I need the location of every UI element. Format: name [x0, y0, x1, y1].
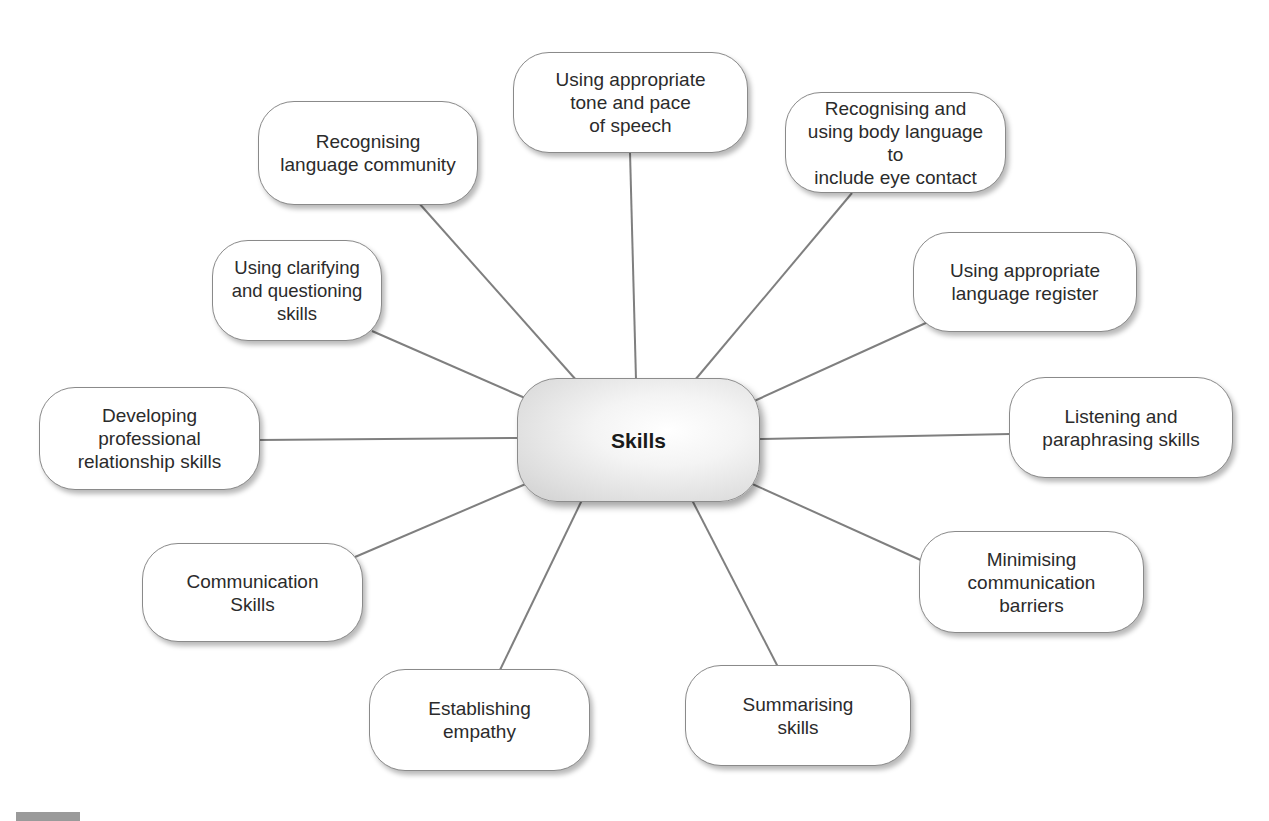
center-node-skills[interactable]: Skills: [517, 378, 760, 502]
node-label: Minimising communication barriers: [968, 548, 1096, 617]
node-label: Recognising language community: [280, 130, 455, 176]
node-label: Listening and paraphrasing skills: [1042, 405, 1199, 451]
node-language-register[interactable]: Using appropriate language register: [913, 232, 1137, 332]
node-label: Using appropriate tone and pace of speec…: [556, 68, 706, 137]
node-tone-pace[interactable]: Using appropriate tone and pace of speec…: [513, 52, 748, 153]
node-professional[interactable]: Developing professional relationship ski…: [39, 387, 260, 490]
node-empathy[interactable]: Establishing empathy: [369, 669, 590, 771]
connector-professional: [259, 438, 519, 440]
node-communication[interactable]: Communication Skills: [142, 543, 363, 642]
connector-language-community: [418, 202, 577, 381]
node-body-language[interactable]: Recognising and using body language to i…: [785, 92, 1006, 193]
connector-clarifying: [372, 331, 525, 398]
node-label: Developing professional relationship ski…: [78, 404, 222, 473]
node-summarising[interactable]: Summarising skills: [685, 665, 911, 766]
node-listening[interactable]: Listening and paraphrasing skills: [1009, 377, 1233, 478]
connector-body-language: [695, 193, 852, 380]
node-label: Communication Skills: [187, 570, 319, 616]
center-node-label: Skills: [611, 429, 666, 452]
node-minimising[interactable]: Minimising communication barriers: [919, 531, 1144, 633]
node-language-community[interactable]: Recognising language community: [258, 101, 478, 205]
connector-tone-pace: [630, 152, 636, 380]
node-label: Summarising skills: [743, 693, 854, 739]
page-footer-tab: [16, 812, 80, 821]
connector-summarising: [692, 500, 778, 667]
connector-language-register: [752, 322, 928, 402]
connector-communication: [355, 483, 528, 557]
connector-minimising: [748, 482, 925, 562]
connector-empathy: [500, 500, 582, 670]
connector-listening: [760, 434, 1010, 439]
node-label: Using clarifying and questioning skills: [221, 256, 373, 325]
node-label: Establishing empathy: [428, 697, 530, 743]
node-label: Recognising and using body language to i…: [800, 97, 991, 189]
node-clarifying[interactable]: Using clarifying and questioning skills: [212, 240, 382, 341]
node-label: Using appropriate language register: [950, 259, 1100, 305]
